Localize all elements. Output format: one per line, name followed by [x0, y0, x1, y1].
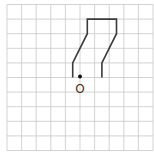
point-o-label: O: [75, 82, 84, 96]
grid-figure: O: [0, 0, 154, 157]
point-o-dot: [78, 75, 82, 79]
